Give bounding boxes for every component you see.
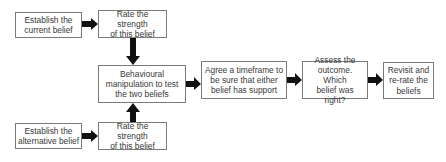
node-label: Assess the outcome. Which belief was rig… [305, 55, 365, 106]
arrow-down-icon [126, 38, 140, 65]
arrow-right-icon [82, 130, 98, 142]
node-rate-current-belief: Rate the strength of this belief [98, 10, 167, 38]
node-behavioural-manipulation: Behavioural manipulation to test the two… [98, 65, 186, 103]
node-revisit-rerate: Revisit and re-rate the beliefs [383, 62, 434, 99]
node-establish-alternative-belief: Establish the alternative belief [15, 123, 82, 149]
node-label: Establish the current belief [24, 15, 72, 35]
arrow-right-icon [186, 77, 201, 90]
arrow-right-icon [287, 73, 302, 86]
node-label: Behavioural manipulation to test the two… [106, 69, 179, 100]
node-label: Rate the strength of this belief [101, 9, 164, 40]
node-establish-current-belief: Establish the current belief [15, 12, 82, 38]
node-label: Establish the alternative belief [18, 126, 79, 146]
node-assess-outcome: Assess the outcome. Which belief was rig… [302, 61, 368, 99]
arrow-right-icon [82, 18, 98, 30]
node-label: Rate the strength of this belief [101, 121, 164, 152]
node-rate-alternative-belief: Rate the strength of this belief [98, 122, 167, 150]
node-agree-timeframe: Agree a timeframe to be sure that either… [201, 61, 287, 99]
node-label: Revisit and re-rate the beliefs [388, 65, 429, 96]
node-label: Agree a timeframe to be sure that either… [205, 65, 283, 96]
arrow-right-icon [368, 73, 383, 86]
arrow-up-icon [126, 103, 140, 122]
